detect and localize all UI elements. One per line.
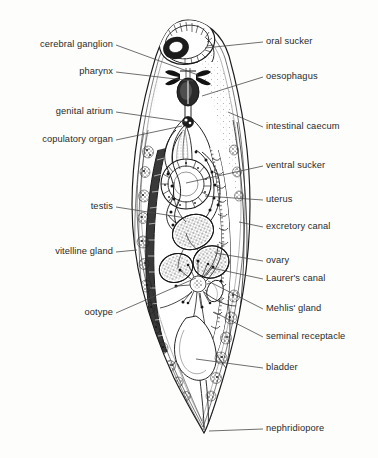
label-pharynx: pharynx — [79, 67, 113, 76]
label-seminal-receptacle: seminal receptacle — [266, 332, 345, 341]
label-oral-sucker: oral sucker — [266, 37, 313, 46]
leader-nephridiopore — [209, 429, 263, 431]
label-oesophagus: oesophagus — [266, 72, 318, 81]
label-nephridiopore: nephridiopore — [266, 424, 324, 433]
label-laurers-canal: Laurer's canal — [266, 274, 326, 283]
label-copulatory-organ: copulatory organ — [42, 135, 113, 144]
label-ootype: ootype — [84, 308, 113, 317]
ventral-sucker-structure — [161, 159, 211, 209]
label-excretory-canal: excretory canal — [266, 222, 331, 231]
pharynx-structure — [177, 78, 199, 106]
label-mehlis-gland: Mehlis' gland — [266, 304, 321, 313]
leader-vitelline-gland — [116, 250, 137, 252]
label-bladder: bladder — [266, 363, 298, 372]
label-ovary: ovary — [266, 256, 289, 265]
label-intestinal-caecum: intestinal caecum — [266, 122, 340, 131]
label-vitelline-gland: vitelline gland — [55, 247, 113, 256]
label-testis: testis — [91, 202, 113, 211]
label-genital-atrium: genital atrium — [56, 107, 113, 116]
label-cerebral-ganglion: cerebral ganglion — [40, 40, 113, 49]
label-ventral-sucker: ventral sucker — [266, 161, 325, 170]
label-uterus: uterus — [266, 195, 292, 204]
